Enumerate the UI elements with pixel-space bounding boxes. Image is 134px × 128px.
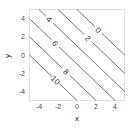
x-tick-label: -2 [55, 103, 61, 110]
y-tick-label: -4 [19, 88, 25, 95]
contour-labels: 0246810 [43, 13, 105, 87]
y-tick-label: 2 [21, 33, 25, 40]
x-tick-label: 4 [113, 103, 117, 110]
contour-chart: 0246810 -4-2024 -4-2024 x y [0, 0, 134, 128]
x-tick-label: -4 [36, 103, 42, 110]
x-tick-label: 2 [94, 103, 98, 110]
contour-lines [30, 10, 125, 101]
plot-frame [30, 10, 125, 101]
x-axis-label: x [75, 114, 79, 123]
x-axis-ticks: -4-2024 [36, 103, 117, 110]
y-axis-label: y [3, 54, 12, 58]
y-tick-label: -2 [19, 70, 25, 77]
x-tick-label: 0 [75, 103, 79, 110]
y-tick-label: 0 [21, 52, 25, 59]
y-tick-label: 4 [21, 15, 25, 22]
y-axis-ticks: -4-2024 [19, 15, 25, 95]
